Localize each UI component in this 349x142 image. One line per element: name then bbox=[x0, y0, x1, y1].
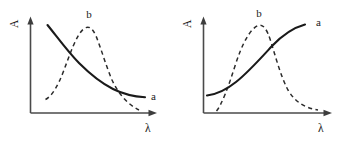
right-panel-y-axis-label: A bbox=[181, 19, 193, 28]
left-panel-x-axis-arrowhead bbox=[149, 110, 158, 116]
left-panel-y-axis-label: A bbox=[8, 19, 20, 28]
left-panel-y-axis-arrowhead bbox=[27, 17, 33, 25]
left-panel-curve-a-label: a bbox=[151, 90, 156, 102]
right-panel: A λ b a bbox=[181, 7, 332, 134]
right-panel-curve-a-label: a bbox=[316, 16, 321, 28]
left-panel-x-axis-label: λ bbox=[145, 122, 151, 134]
right-panel-x-axis-label: λ bbox=[318, 122, 324, 134]
right-panel-y-axis-arrowhead bbox=[200, 17, 206, 25]
figure-root: A λ b a A λ b a bbox=[0, 0, 349, 142]
right-panel-curve-b bbox=[217, 25, 319, 111]
diagram-canvas: A λ b a A λ b a bbox=[0, 0, 349, 142]
left-panel-curve-b-label: b bbox=[86, 8, 92, 20]
left-panel: A λ b a bbox=[8, 8, 157, 134]
right-panel-x-axis-arrowhead bbox=[324, 110, 333, 116]
right-panel-curve-b-label: b bbox=[256, 7, 262, 19]
left-panel-curve-a bbox=[48, 25, 146, 97]
right-panel-curve-a bbox=[207, 25, 305, 96]
